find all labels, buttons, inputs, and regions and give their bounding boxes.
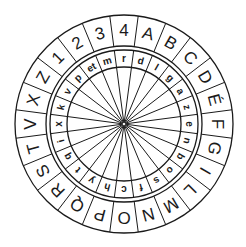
inner-segment[interactable]: p [72,72,84,84]
inner-segment[interactable]: v [61,86,74,97]
outer-divider [201,134,232,138]
outer-segment[interactable]: C [179,47,201,69]
outer-segment[interactable]: 4 [119,21,128,40]
inner-segment[interactable]: d [137,55,146,67]
inner-segment[interactable]: a [175,86,188,97]
outer-segment[interactable]: É [204,92,225,108]
inner-segment[interactable]: m [101,54,113,67]
inner-segment[interactable]: k [55,103,67,112]
outer-divider [16,134,47,138]
inner-segment[interactable]: n [181,137,193,146]
outer-segment[interactable]: R [47,179,69,201]
inner-segment[interactable]: c [121,184,127,195]
outer-segment[interactable]: V [21,118,40,130]
inner-segment[interactable]: l [153,62,161,73]
inner-segment[interactable]: t [72,165,83,176]
inner-segment[interactable]: o [164,164,176,176]
outer-divider [16,110,47,114]
inner-segment[interactable]: et [85,60,99,74]
outer-divider [134,201,138,232]
outer-segment[interactable]: Z [32,68,54,86]
outer-segment[interactable]: T [23,141,44,156]
outer-segment[interactable]: 3 [93,23,107,44]
outer-segment[interactable]: D [194,67,217,87]
outer-segment[interactable]: N [140,204,157,226]
inner-segment[interactable]: f [137,182,144,194]
inner-segment[interactable]: x [53,121,64,127]
inner-segment[interactable]: e [184,121,195,127]
outer-segment[interactable]: Q [67,193,88,216]
outer-divider [110,16,114,47]
outer-segment[interactable]: F [208,119,227,129]
inner-segment[interactable]: q [61,151,74,162]
inner-segment[interactable]: r [122,53,126,64]
center-pin[interactable] [122,122,125,125]
outer-divider [110,201,114,232]
outer-segment[interactable]: A [140,23,157,44]
outer-segment[interactable]: B [161,32,180,54]
cipher-wheel: 4ABCDÉFGILMNOPQRSTVXZ123 rdlgazenbosfchy… [0,0,246,247]
inner-segment[interactable]: y [86,174,97,187]
inner-segment[interactable]: h [103,181,112,193]
outer-segment[interactable]: O [117,208,130,227]
outer-segment[interactable]: S [32,161,54,180]
outer-segment[interactable]: P [92,204,108,225]
outer-segment[interactable]: L [180,180,200,200]
outer-segment[interactable]: 2 [68,32,86,53]
inner-segment[interactable]: b [174,151,187,162]
outer-segment[interactable]: X [23,92,44,108]
outer-divider [134,16,138,47]
outer-segment[interactable]: M [160,193,182,217]
outer-divider [201,110,232,114]
inner-segment[interactable]: i [55,138,66,144]
outer-segment[interactable]: 1 [48,48,68,68]
outer-segment[interactable]: G [203,139,225,157]
inner-segment[interactable]: g [164,72,176,84]
inner-segment[interactable]: z [181,103,193,111]
outer-segment[interactable]: I [196,164,215,178]
inner-segment[interactable]: s [151,175,162,188]
